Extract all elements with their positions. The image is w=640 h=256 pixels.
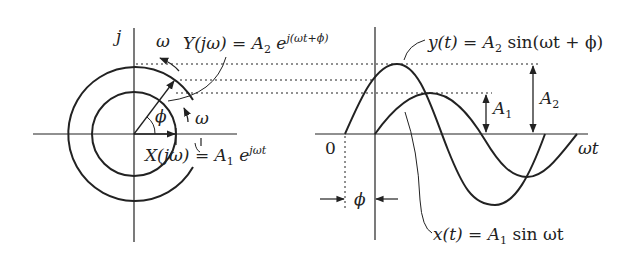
phase-shift-label: ϕ (354, 191, 366, 208)
Y-phasor-equation: Y(jω) = A2 ej(ωt+ϕ) (183, 33, 329, 55)
time-axis-label: ωt (578, 140, 599, 157)
origin-label: 0 (325, 140, 336, 157)
phi-angle-label: ϕ (155, 108, 167, 125)
x-label-leader (405, 112, 432, 233)
omega-outer-label: ω (156, 33, 170, 50)
X-phasor-equation: X(jω) = A1 ejωt (145, 145, 266, 167)
A2-label: A2 (540, 90, 559, 110)
y-t-equation: y(t) = A2 sin(ωt + ϕ) (428, 34, 603, 54)
A1-label: A1 (493, 100, 512, 120)
imag-axis-label: j (116, 28, 121, 45)
omega-inner-arrow (184, 108, 188, 122)
omega-inner-label: ω (195, 110, 209, 127)
phi-angle-arc (147, 117, 155, 134)
y-label-leader (404, 40, 425, 60)
x-t-equation: x(t) = A1 sin ωt (433, 226, 564, 246)
